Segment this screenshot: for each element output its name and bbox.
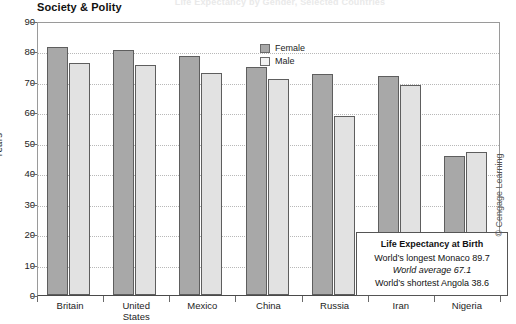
bar-male-united-states <box>135 65 156 295</box>
x-tick-label-britain: Britain <box>33 300 107 311</box>
legend-item-female: Female <box>260 43 305 53</box>
bar-female-united-states <box>113 50 134 295</box>
bar-group <box>47 23 91 295</box>
bar-female-russia <box>312 74 333 295</box>
bar-group <box>179 23 223 295</box>
bar-group <box>312 23 356 295</box>
legend-swatch-female <box>260 44 270 53</box>
chart-legend: FemaleMale <box>260 43 305 69</box>
y-axis-title: Years <box>0 133 4 158</box>
legend-item-male: Male <box>260 56 305 66</box>
y-tick-mark <box>31 113 37 114</box>
legend-label: Male <box>275 56 295 66</box>
y-tick-mark <box>31 144 37 145</box>
y-tick-mark <box>31 52 37 53</box>
bar-male-britain <box>69 63 90 295</box>
callout-title: Life Expectancy at Birth <box>363 238 501 251</box>
legend-label: Female <box>275 43 305 53</box>
callout-shortest: World’s shortest Angola 38.6 <box>363 277 501 290</box>
y-tick-mark <box>31 83 37 84</box>
y-tick-mark <box>31 296 37 297</box>
x-tick-label-mexico: Mexico <box>165 300 239 311</box>
plot-area: FemaleMale Life Expectancy at Birth Worl… <box>37 22 500 296</box>
bar-male-china <box>268 79 289 295</box>
x-tick-label-russia: Russia <box>298 300 372 311</box>
x-tick-label-iran: Iran <box>364 300 438 311</box>
section-heading: Society & Polity <box>37 1 122 13</box>
x-tick-label-united-states: UnitedStates <box>99 300 173 322</box>
callout-longest: World’s longest Monaco 89.7 <box>363 252 501 265</box>
figure-top-caption: Life Expectancy by Gender, Selected Coun… <box>150 0 410 8</box>
y-tick-mark <box>31 22 37 23</box>
y-tick-mark <box>31 266 37 267</box>
y-axis: 0102030405060708090 <box>9 22 35 296</box>
x-tick-label-china: China <box>232 300 306 311</box>
y-tick-mark <box>31 205 37 206</box>
x-tick-label-nigeria: Nigeria <box>430 300 504 311</box>
bar-male-russia <box>334 116 355 295</box>
y-tick-mark <box>31 235 37 236</box>
bar-male-mexico <box>201 73 222 295</box>
chart-figure: Life Expectancy by Gender, Selected Coun… <box>0 0 516 324</box>
annotation-callout: Life Expectancy at Birth World’s longest… <box>356 232 508 296</box>
bar-group <box>113 23 157 295</box>
legend-swatch-male <box>260 57 270 66</box>
callout-average: World average 67.1 <box>363 264 501 277</box>
copyright-credit: © Cengage Learning <box>494 140 504 250</box>
bar-female-britain <box>47 47 68 295</box>
bar-female-mexico <box>179 56 200 295</box>
y-tick-mark <box>31 174 37 175</box>
bar-female-china <box>246 67 267 295</box>
